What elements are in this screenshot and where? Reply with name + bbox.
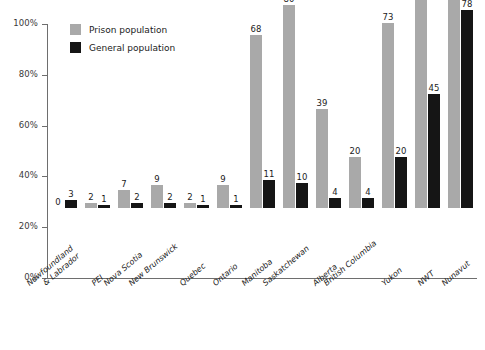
bar-group: 7320: [382, 0, 407, 208]
bar-value-label: 0: [55, 198, 60, 207]
bar-pair: 6811: [250, 0, 275, 208]
y-tick-label: 40%: [19, 170, 38, 180]
bar-pair: 21: [184, 0, 209, 208]
bar-value-label: 4: [365, 188, 370, 197]
bar-fill-general: [461, 10, 473, 208]
bar-group: 21: [184, 0, 209, 208]
bar-value-label: 9: [154, 175, 159, 184]
bar-pair: 21: [85, 0, 110, 208]
bar-fill-prison: [316, 109, 328, 208]
bar-group: 91: [217, 0, 242, 208]
bar-group: 8010: [283, 0, 308, 208]
bar-value-label: 1: [101, 195, 106, 204]
bar-fill-general: [197, 205, 209, 208]
bar-fill-prison: [250, 35, 262, 208]
y-tick-mark: [42, 126, 47, 127]
y-tick-label: 20%: [19, 221, 38, 231]
bar-value-label: 78: [462, 0, 473, 8]
bar-value-label: 1: [233, 195, 238, 204]
bar-group: 9778: [448, 0, 473, 208]
bar-fill-prison: [85, 203, 97, 208]
bar-pair: 8010: [283, 0, 308, 208]
bar-value-label: 1: [200, 195, 205, 204]
bar-group: 8845: [415, 0, 440, 208]
bar-fill-prison: [217, 185, 229, 208]
y-tick-label: 100%: [13, 18, 38, 28]
bar-fill-general: [296, 183, 308, 208]
bar-value-label: 3: [68, 190, 73, 199]
bar-fill-general: [230, 205, 242, 208]
bar-fill-prison: [151, 185, 163, 208]
bar-value-label: 80: [284, 0, 295, 3]
bar-value-label: 2: [134, 193, 139, 202]
bar-group: 92: [151, 0, 176, 208]
bar-group: 6811: [250, 0, 275, 208]
y-tick-mark: [42, 227, 47, 228]
bar-fill-general: [428, 94, 440, 208]
y-tick-mark: [42, 24, 47, 25]
bar-fill-prison: [382, 23, 394, 208]
bar-value-label: 11: [264, 170, 275, 179]
bar-pair: 92: [151, 0, 176, 208]
bar-pair: 7320: [382, 0, 407, 208]
bar-fill-prison: [184, 203, 196, 208]
bar-value-label: 10: [297, 173, 308, 182]
y-tick-label: 80%: [19, 69, 38, 79]
bar-fill-general: [395, 157, 407, 208]
bar-fill-prison: [349, 157, 361, 208]
bar-fill-general: [164, 203, 176, 208]
bar-fill-general: [329, 198, 341, 208]
bar-group: 72: [118, 0, 143, 208]
y-tick-label: 60%: [19, 120, 38, 130]
bar-group: 204: [349, 0, 374, 208]
y-tick-mark: [42, 176, 47, 177]
bar-value-label: 2: [167, 193, 172, 202]
bar-fill-prison: [283, 5, 295, 208]
bar-pair: 03: [52, 0, 77, 208]
bar-fill-general: [263, 180, 275, 208]
bar-group: 03: [52, 0, 77, 208]
bar-fill-general: [65, 200, 77, 208]
bar-value-label: 9: [220, 175, 225, 184]
bar-pair: 9778: [448, 0, 473, 208]
bar-fill-prison: [415, 0, 427, 208]
bar-value-label: 73: [383, 13, 394, 22]
bar-group: 21: [85, 0, 110, 208]
bar-value-label: 4: [332, 188, 337, 197]
bar-pair: 204: [349, 0, 374, 208]
bar-value-label: 20: [350, 147, 361, 156]
bar-value-label: 2: [187, 193, 192, 202]
bar-group: 394: [316, 0, 341, 208]
bar-value-label: 2: [88, 193, 93, 202]
bar-pair: 72: [118, 0, 143, 208]
bar-value-label: 45: [429, 84, 440, 93]
bar-value-label: 20: [396, 147, 407, 156]
bar-value-label: 39: [317, 99, 328, 108]
bar-pair: 394: [316, 0, 341, 208]
bar-pair: 91: [217, 0, 242, 208]
bar-pair: 8845: [415, 0, 440, 208]
bar-fill-general: [98, 205, 110, 208]
bar-chart: 0%20%40%60%80%100% Prison population Gen…: [0, 0, 485, 350]
bar-value-label: 7: [121, 180, 126, 189]
bar-fill-general: [362, 198, 374, 208]
bar-fill-prison: [118, 190, 130, 208]
bar-fill-prison: [448, 0, 460, 208]
bar-fill-general: [131, 203, 143, 208]
bar-value-label: 68: [251, 25, 262, 34]
x-axis-category-labels: Newfoundland& LabradorPEINova ScotiaNew …: [48, 281, 477, 350]
bar-groups: 03217292219168118010394204732088459778: [48, 0, 477, 279]
y-tick-mark: [42, 75, 47, 76]
